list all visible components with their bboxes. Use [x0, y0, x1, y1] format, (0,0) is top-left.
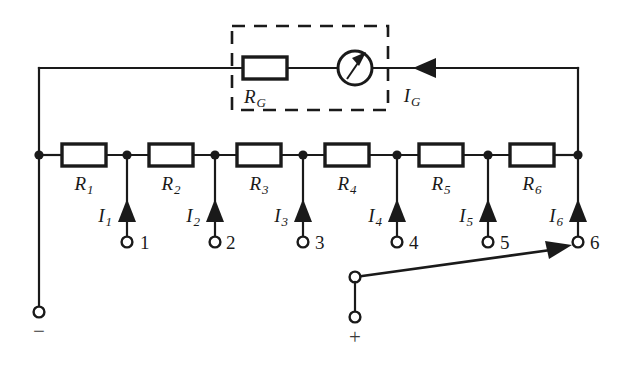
label-i1: I1: [97, 205, 112, 229]
label-r6: R6: [521, 173, 542, 197]
label-supply-positive: +: [349, 325, 361, 349]
current-arrow-i1-icon: [118, 199, 136, 222]
schematic-canvas: RG IG R1 R2 R3 R4 R5 R6 I1 I2 I3 I4 I5 I…: [0, 0, 628, 366]
terminal-post-positive[interactable]: [350, 312, 361, 323]
label-terminal-2: 2: [226, 232, 236, 253]
label-i2: I2: [185, 205, 200, 229]
label-i5-sub: 5: [467, 214, 474, 229]
label-r4-base: R: [336, 173, 349, 194]
label-i2-sub: 2: [194, 214, 201, 229]
resistor-r2-body: [149, 144, 193, 166]
label-r2-base: R: [160, 173, 173, 194]
label-terminal-3: 3: [315, 232, 325, 253]
label-r2-sub: 2: [174, 182, 181, 197]
terminal-post-6[interactable]: [573, 237, 584, 248]
resistor-r6-body: [510, 144, 554, 166]
resistor-r3-body: [237, 144, 281, 166]
label-r3: R3: [248, 173, 269, 197]
current-arrow-i6-icon: [569, 199, 587, 222]
label-i1-sub: 1: [106, 214, 113, 229]
label-r4: R4: [336, 173, 357, 197]
resistor-r1-body: [62, 144, 106, 166]
terminal-post-4[interactable]: [392, 237, 403, 248]
label-r1-base: R: [73, 173, 86, 194]
label-r2: R2: [160, 173, 181, 197]
selector-switch-blade[interactable]: [355, 249, 558, 277]
label-i3: I3: [273, 205, 288, 229]
current-arrow-i4-icon: [388, 199, 406, 222]
label-r4-sub: 4: [350, 182, 357, 197]
terminal-post-3[interactable]: [298, 237, 309, 248]
label-r1: R1: [73, 173, 93, 197]
label-r6-base: R: [521, 173, 534, 194]
label-i3-sub: 3: [281, 214, 289, 229]
label-rg-base: R: [243, 86, 256, 107]
label-terminal-1: 1: [140, 232, 150, 253]
label-terminal-4: 4: [409, 232, 419, 253]
label-rg: RG: [243, 86, 267, 110]
label-rg-sub: G: [257, 95, 267, 110]
selector-switch-contact-icon: [545, 241, 572, 259]
resistor-r4-body: [325, 144, 369, 166]
terminal-post-negative[interactable]: [34, 307, 45, 318]
circuit-diagram: RG IG R1 R2 R3 R4 R5 R6 I1 I2 I3 I4 I5 I…: [0, 0, 628, 366]
label-r5-sub: 5: [444, 182, 451, 197]
terminal-post-1[interactable]: [122, 237, 133, 248]
label-r1-sub: 1: [87, 182, 94, 197]
label-i5: I5: [458, 205, 473, 229]
selector-switch-pivot[interactable]: [350, 272, 361, 283]
label-r5-base: R: [430, 173, 443, 194]
label-r3-base: R: [248, 173, 261, 194]
current-arrow-i2-icon: [206, 199, 224, 222]
terminal-post-2[interactable]: [210, 237, 221, 248]
label-terminal-5: 5: [500, 232, 510, 253]
label-r3-sub: 3: [261, 182, 269, 197]
terminal-post-5[interactable]: [483, 237, 494, 248]
label-terminal-6: 6: [590, 232, 600, 253]
label-supply-negative: −: [33, 319, 45, 343]
current-arrow-i5-icon: [479, 199, 497, 222]
resistor-r5-body: [419, 144, 463, 166]
label-i6-sub: 6: [557, 214, 564, 229]
label-i4: I4: [367, 205, 382, 229]
resistor-rg-body: [243, 57, 287, 79]
current-arrow-ig-icon: [413, 58, 436, 78]
label-ig: IG: [403, 85, 421, 109]
node-dot-left: [34, 150, 43, 159]
label-i4-sub: 4: [376, 214, 383, 229]
label-r5: R5: [430, 173, 451, 197]
label-i6: I6: [548, 205, 563, 229]
current-arrow-i3-icon: [294, 199, 312, 222]
label-ig-sub: G: [411, 94, 421, 109]
label-r6-sub: 6: [535, 182, 542, 197]
